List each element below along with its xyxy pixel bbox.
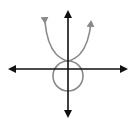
graph-diagram [0,0,132,124]
